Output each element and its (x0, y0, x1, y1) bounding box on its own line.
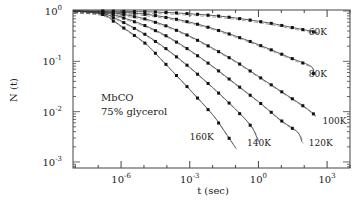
series-80K (73, 10, 315, 75)
data-point (228, 56, 231, 59)
data-point (175, 29, 178, 32)
series-label-80K: 80K (309, 69, 327, 79)
data-point (291, 57, 294, 60)
data-point (217, 15, 220, 18)
data-point (249, 19, 252, 22)
data-point (291, 97, 294, 100)
data-point (143, 42, 146, 45)
data-point (164, 24, 167, 27)
series-label-140K: 140K (247, 138, 271, 148)
data-point (133, 12, 136, 15)
series-60K (73, 10, 319, 35)
data-point (270, 83, 273, 86)
y-axis-title: N (t) (8, 78, 19, 102)
series-label-60K: 60K (309, 27, 327, 37)
data-point (112, 16, 115, 19)
series-120K (73, 11, 303, 143)
data-point (143, 17, 146, 20)
x-tick-label: 10-3 (180, 172, 200, 185)
data-point (291, 26, 294, 29)
data-point (122, 17, 125, 20)
data-point (143, 24, 146, 27)
data-point (164, 16, 167, 19)
y-tick-label: 10-2 (42, 105, 62, 118)
data-point (270, 111, 273, 114)
x-tick-label: 10-6 (111, 172, 131, 185)
x-tick-label: 100 (250, 172, 267, 185)
chart: 10-610-3100103 10010-110-210-3 60K80K100… (0, 0, 358, 211)
data-point (249, 124, 252, 127)
data-point (196, 39, 199, 42)
data-point (133, 27, 136, 30)
data-point (312, 112, 315, 115)
data-point (301, 104, 304, 107)
series-labels: 60K80K100K120K140K160K (190, 27, 347, 148)
data-point (280, 53, 283, 56)
data-point (154, 21, 157, 24)
data-point (175, 18, 178, 21)
y-tick-label: 10-1 (42, 54, 62, 67)
data-point (238, 112, 241, 115)
data-point (154, 11, 157, 14)
data-point (301, 28, 304, 31)
data-point (196, 97, 199, 100)
data-point (196, 73, 199, 76)
data-point (196, 23, 199, 26)
data-point (217, 69, 220, 72)
data-point (270, 22, 273, 25)
data-point (186, 20, 189, 23)
data-point (228, 78, 231, 81)
data-point (164, 47, 167, 50)
data-point (238, 86, 241, 89)
data-point (228, 137, 231, 140)
data-series (73, 10, 319, 150)
data-point (133, 15, 136, 18)
data-point (143, 33, 146, 36)
data-point (238, 63, 241, 66)
data-point (228, 16, 231, 19)
data-point (154, 14, 157, 17)
inset-label-sample: MbCO (101, 92, 134, 103)
data-point (280, 24, 283, 27)
data-point (259, 76, 262, 79)
data-point (249, 40, 252, 43)
data-point (291, 127, 294, 130)
x-tick-label: 103 (319, 172, 336, 185)
inset-label-solvent: 75% glycerol (101, 106, 167, 117)
data-point (186, 33, 189, 36)
data-point (280, 120, 283, 123)
data-point (133, 20, 136, 23)
data-point (143, 13, 146, 16)
data-point (217, 122, 220, 125)
data-point (228, 32, 231, 35)
data-point (217, 50, 220, 53)
data-point (207, 108, 210, 111)
data-point (207, 14, 210, 17)
data-point (112, 14, 115, 17)
data-point (270, 48, 273, 51)
data-point (196, 13, 199, 16)
data-point (154, 29, 157, 32)
data-point (186, 85, 189, 88)
y-axis-tick-labels: 10010-110-210-3 (42, 4, 62, 168)
data-point (280, 90, 283, 93)
data-point (122, 27, 125, 30)
data-point (196, 54, 199, 57)
data-point (259, 102, 262, 105)
data-point (186, 64, 189, 67)
data-point (217, 29, 220, 32)
y-tick-label: 100 (45, 4, 62, 17)
data-point (228, 102, 231, 105)
data-point (175, 41, 178, 44)
data-point (207, 62, 210, 65)
data-point (101, 13, 104, 16)
data-point (154, 52, 157, 55)
data-point (154, 40, 157, 43)
data-point (249, 69, 252, 72)
series-label-120K: 120K (309, 138, 333, 148)
y-tick-label: 10-3 (42, 155, 62, 168)
data-point (133, 34, 136, 37)
data-point (207, 26, 210, 29)
data-point (122, 13, 125, 16)
data-point (175, 74, 178, 77)
